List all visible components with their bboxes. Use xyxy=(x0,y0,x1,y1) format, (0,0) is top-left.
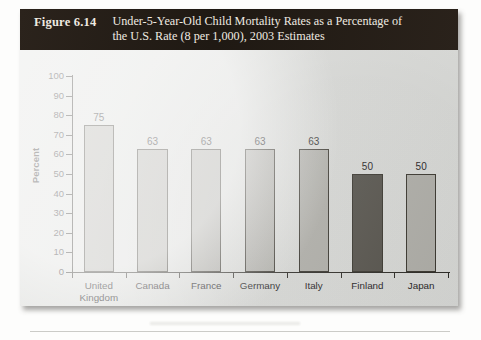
y-tick-mark xyxy=(66,252,72,253)
x-tick-label: Japan xyxy=(387,280,455,292)
figure-number: Figure 6.14 xyxy=(34,14,96,30)
x-tick-label-line: Japan xyxy=(387,280,455,292)
bar xyxy=(352,174,382,272)
y-tick-mark xyxy=(66,233,72,234)
bar-value-label: 63 xyxy=(129,136,177,147)
page-horizontal-rule xyxy=(30,331,450,332)
y-tick-label: 90 xyxy=(20,90,64,101)
x-tick-mark xyxy=(72,272,73,278)
y-tick-label: 100 xyxy=(20,70,64,81)
y-tick-label: 60 xyxy=(20,148,64,159)
y-tick-mark xyxy=(66,135,72,136)
y-tick-label: 0 xyxy=(20,266,64,277)
y-tick-mark xyxy=(66,213,72,214)
y-tick-label: 50 xyxy=(20,168,64,179)
figure-caption-line-2: the U.S. Rate (8 per 1,000), 2003 Estima… xyxy=(112,29,448,44)
x-tick-mark xyxy=(126,272,127,278)
y-tick-label: 30 xyxy=(20,207,64,218)
y-tick-label: 40 xyxy=(20,188,64,199)
bar-value-label: 50 xyxy=(343,161,391,172)
x-tick-mark xyxy=(394,272,395,278)
y-tick-label: 80 xyxy=(20,109,64,120)
figure-caption-line-1: Under-5-Year-Old Child Mortality Rates a… xyxy=(112,14,448,29)
y-tick-mark xyxy=(66,76,72,77)
y-tick-label: 20 xyxy=(20,227,64,238)
x-tick-mark xyxy=(448,272,449,278)
x-tick-mark xyxy=(233,272,234,278)
bar-chart: Percent 0102030405060708090100 756363636… xyxy=(20,50,458,306)
x-tick-mark xyxy=(179,272,180,278)
bar-value-label: 50 xyxy=(397,161,445,172)
bar-value-label: 63 xyxy=(182,136,230,147)
x-tick-mark xyxy=(341,272,342,278)
bar xyxy=(137,149,167,272)
y-tick-label: 10 xyxy=(20,246,64,257)
bar xyxy=(245,149,275,272)
bar-value-label: 63 xyxy=(290,136,338,147)
y-tick-mark xyxy=(66,154,72,155)
y-axis-title: Percent xyxy=(30,136,41,196)
bar xyxy=(299,149,329,272)
bar-value-label: 75 xyxy=(75,112,123,123)
bar xyxy=(84,125,114,272)
x-tick-label-line: Kingdom xyxy=(65,292,133,304)
y-tick-mark xyxy=(66,115,72,116)
figure-panel: Figure 6.14 Under-5-Year-Old Child Morta… xyxy=(20,9,458,306)
bar xyxy=(406,174,436,272)
y-axis-line xyxy=(72,75,73,273)
y-tick-mark xyxy=(66,194,72,195)
figure-caption-text: Under-5-Year-Old Child Mortality Rates a… xyxy=(112,14,448,44)
figure-caption-bar: Figure 6.14 Under-5-Year-Old Child Morta… xyxy=(20,9,458,50)
y-tick-mark xyxy=(66,96,72,97)
bar-value-label: 63 xyxy=(236,136,284,147)
x-tick-mark xyxy=(287,272,288,278)
bar xyxy=(191,149,221,272)
y-tick-label: 70 xyxy=(20,129,64,140)
page-smudge xyxy=(150,322,300,325)
y-tick-mark xyxy=(66,174,72,175)
